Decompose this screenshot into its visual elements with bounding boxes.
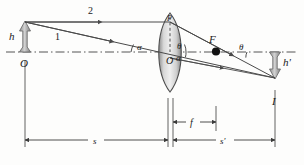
label-dimension-object-distance: s bbox=[93, 136, 97, 146]
label-image-point: I bbox=[271, 95, 277, 107]
label-object-height: h bbox=[9, 30, 15, 42]
construction-ray-lower bbox=[170, 58, 275, 78]
object-arrow bbox=[19, 21, 30, 52]
image-arrow bbox=[269, 52, 280, 79]
ray-1-chief bbox=[25, 22, 275, 78]
label-vertex-origin: O bbox=[20, 57, 28, 69]
label-angle-alpha-left: α bbox=[137, 42, 142, 52]
label-lens-top-point: P bbox=[166, 14, 172, 23]
label-ray-two: 2 bbox=[88, 5, 93, 16]
label-ray-one: 1 bbox=[55, 31, 60, 42]
label-angle-alpha-right: α bbox=[176, 53, 181, 63]
optics-ray-diagram-figure: h h' O O P F I 1 2 α α θ θ s f s' bbox=[0, 0, 304, 165]
label-angle-theta-right: θ bbox=[239, 42, 244, 52]
label-lens-center: O bbox=[166, 55, 173, 66]
angle-arcs bbox=[131, 45, 247, 58]
dimension-object-distance bbox=[25, 60, 168, 147]
focal-point-marker bbox=[212, 47, 220, 55]
label-focal-point: F bbox=[208, 33, 216, 45]
figure-canvas: h h' O O P F I 1 2 α α θ θ s f s' bbox=[0, 0, 304, 165]
label-image-height: h' bbox=[283, 56, 292, 68]
label-angle-theta-left: θ bbox=[177, 41, 182, 51]
